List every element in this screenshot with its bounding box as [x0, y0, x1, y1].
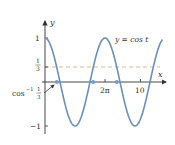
cosine-chart: y x y = cos t 1 1 3 −1 2π 10 cos −1 1 3	[0, 0, 175, 145]
marked-point	[55, 80, 59, 84]
arccos-label-prefix: cos	[12, 89, 25, 98]
marked-point	[115, 80, 119, 84]
tick-label-third-den: 3	[36, 65, 40, 72]
tick-label-ten: 10	[135, 86, 145, 95]
curve-label: y = cos t	[114, 35, 149, 44]
tick-label-one: 1	[35, 34, 40, 43]
marked-point	[91, 80, 95, 84]
x-axis-label: x	[158, 70, 163, 79]
y-axis-label: y	[49, 18, 55, 27]
tick-label-neg-one: −1	[30, 122, 41, 131]
arccos-label-num: 1	[37, 86, 41, 92]
arccos-pointer-arrow	[44, 85, 54, 93]
arccos-label-den: 3	[37, 94, 41, 100]
tick-label-third-num: 1	[36, 57, 40, 64]
tick-label-two-pi: 2π	[100, 86, 110, 95]
arccos-label-sup: −1	[26, 86, 33, 92]
